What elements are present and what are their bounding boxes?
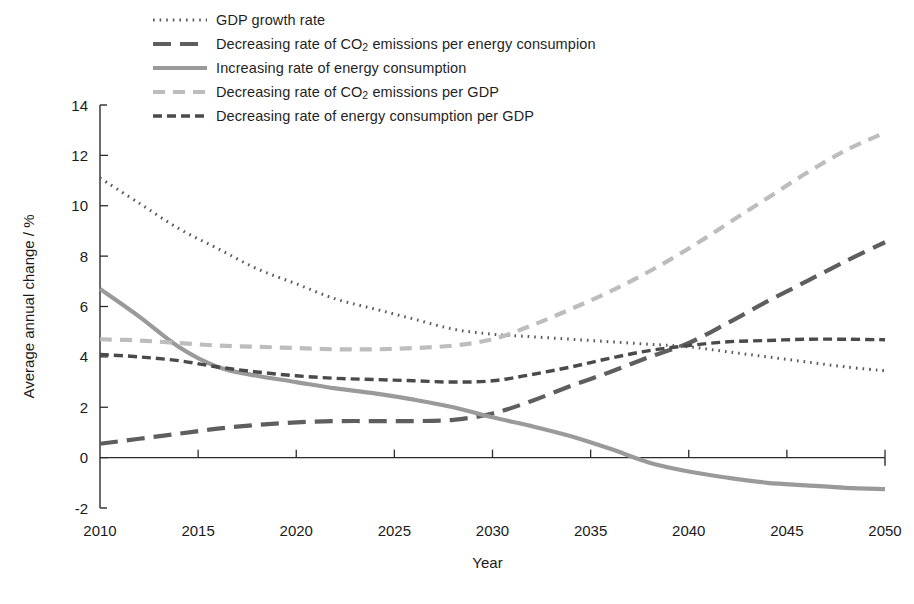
y-tick-label: 4 <box>80 348 88 365</box>
plot-area: -202468101214201020152020202520302035204… <box>0 0 914 604</box>
y-tick-label: 8 <box>80 248 88 265</box>
y-tick-label: 0 <box>80 449 88 466</box>
axis-label-group: -202468101214201020152020202520302035204… <box>20 97 902 572</box>
y-tick-label: 10 <box>71 197 88 214</box>
x-tick-label: 2045 <box>770 522 803 539</box>
x-tick-label: 2015 <box>181 522 214 539</box>
x-tick-label: 2010 <box>83 522 116 539</box>
x-tick-label: 2030 <box>476 522 509 539</box>
x-tick-label: 2035 <box>574 522 607 539</box>
y-tick-label: 12 <box>71 147 88 164</box>
series-line-co2_per_energy <box>100 242 885 443</box>
x-tick-label: 2050 <box>868 522 901 539</box>
y-tick-label: 2 <box>80 399 88 416</box>
y-tick-label: 6 <box>80 298 88 315</box>
x-tick-label: 2020 <box>280 522 313 539</box>
y-tick-label: -2 <box>75 500 88 517</box>
x-tick-label: 2025 <box>378 522 411 539</box>
plot-svg: -202468101214201020152020202520302035204… <box>0 0 914 604</box>
y-axis-title: Average annual change / % <box>20 214 37 398</box>
series-line-energy_consumption <box>100 289 885 489</box>
series-group <box>100 133 885 489</box>
series-line-co2_per_gdp <box>100 133 885 350</box>
axis-group <box>100 105 885 508</box>
series-line-energy_per_gdp <box>100 339 885 382</box>
x-tick-label: 2040 <box>672 522 705 539</box>
x-axis-title: Year <box>472 554 502 571</box>
chart-page: GDP growth rateDecreasing rate of CO2 em… <box>0 0 914 604</box>
y-tick-label: 14 <box>71 97 88 114</box>
